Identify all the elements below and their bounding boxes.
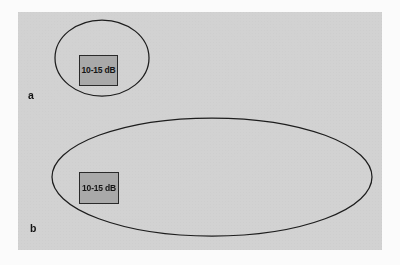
- value-box-a: 10-15 dB: [79, 55, 118, 86]
- figure-container: 10-15 dB 10-15 dB a b: [0, 0, 400, 265]
- value-box-a-label: 10-15 dB: [82, 66, 116, 75]
- value-box-b-label: 10-15 dB: [82, 184, 116, 193]
- panel-label-b: b: [30, 223, 36, 234]
- region-outlines-layer: [0, 0, 400, 265]
- value-box-b: 10-15 dB: [79, 172, 119, 204]
- panel-label-a: a: [28, 90, 34, 101]
